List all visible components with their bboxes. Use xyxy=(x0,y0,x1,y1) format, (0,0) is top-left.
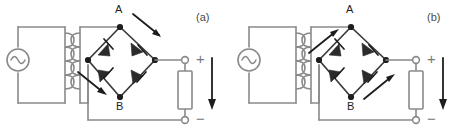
output-minus-sign-a: − xyxy=(196,111,205,126)
output-minus-sign-b: − xyxy=(427,111,436,126)
negative-terminal-b xyxy=(413,117,420,124)
bridge-rectifier-figure: A B (a) + − xyxy=(0,0,462,138)
bridge-rectifier-a xyxy=(88,27,155,97)
node-a-dot xyxy=(117,24,123,30)
transformer-secondary-coil-b xyxy=(302,27,311,103)
ac-source-loop-a xyxy=(7,27,65,103)
transformer-secondary-coil-a xyxy=(71,27,80,103)
load-current-arrow-b xyxy=(439,58,447,110)
load-resistor-b xyxy=(409,71,423,109)
output-plus-sign-b: + xyxy=(427,51,436,66)
node-b-label: B xyxy=(347,101,354,112)
panel-caption-b: (b) xyxy=(427,12,440,23)
positive-terminal-a xyxy=(182,57,189,64)
node-a-dot xyxy=(348,24,354,30)
node-a-label: A xyxy=(115,4,122,15)
transformer-primary-coil-b xyxy=(296,27,305,103)
load-current-arrow-a xyxy=(208,58,216,110)
node-a-label: A xyxy=(346,4,353,15)
upper-right-current-arrow-a xyxy=(133,14,161,37)
node-b-label: B xyxy=(116,101,123,112)
ac-source-loop-b xyxy=(238,27,296,103)
transformer-primary-coil-a xyxy=(65,27,74,103)
panel-caption-a: (a) xyxy=(196,12,209,23)
output-plus-sign-a: + xyxy=(196,51,205,66)
positive-terminal-b xyxy=(413,57,420,64)
circuit-panel-b: A B (b) + − xyxy=(231,0,462,138)
negative-terminal-a xyxy=(182,117,189,124)
load-resistor-a xyxy=(178,71,192,109)
node-left-dot xyxy=(85,57,91,63)
circuit-panel-a: A B (a) + − xyxy=(0,0,231,138)
node-left-dot xyxy=(316,57,322,63)
